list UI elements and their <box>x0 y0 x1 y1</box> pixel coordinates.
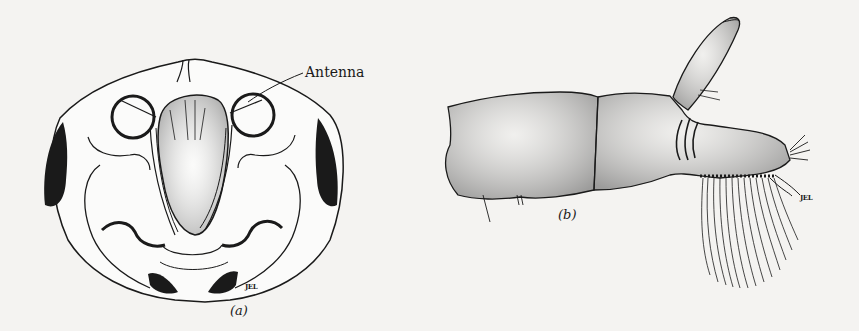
antenna-callout-label: Antenna <box>305 64 364 80</box>
panel-b-appendage-view: JEL (b) <box>420 0 859 331</box>
artist-signature: JEL <box>245 282 257 291</box>
panel-a-head-front-view: Antenna JEL (a) <box>0 0 420 331</box>
artist-signature: JEL <box>800 193 812 202</box>
panel-label-a: (a) <box>230 303 248 318</box>
appendage-illustration <box>420 0 859 331</box>
head-illustration <box>0 0 420 331</box>
panel-label-b: (b) <box>558 207 576 222</box>
